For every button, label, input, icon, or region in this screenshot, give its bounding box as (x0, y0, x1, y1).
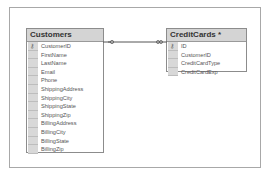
column-name: BillingZip (41, 145, 64, 154)
column-name: ShippingZip (41, 111, 71, 120)
row-selector[interactable] (28, 119, 38, 128)
column-row[interactable]: FirstName (27, 51, 103, 60)
column-row[interactable]: CustomerID (167, 51, 246, 60)
column-name: ShippingCity (41, 94, 72, 103)
column-name: CreditCardType (181, 59, 220, 68)
column-name: CreditCardExp (181, 68, 218, 77)
column-name: BillingState (41, 137, 69, 146)
key-icon: ⚷ (170, 42, 174, 50)
row-selector[interactable] (168, 51, 178, 60)
column-row[interactable]: ShippingCity (27, 94, 103, 103)
row-selector[interactable] (28, 85, 38, 94)
column-row[interactable]: ⚷CustomerID (27, 42, 103, 51)
row-selector[interactable]: ⚷ (168, 42, 178, 51)
row-selector[interactable] (28, 59, 38, 68)
row-selector[interactable] (28, 51, 38, 60)
column-row[interactable]: BillingState (27, 137, 103, 146)
column-row[interactable]: LastName (27, 59, 103, 68)
column-row[interactable]: CreditCardExp (167, 68, 246, 77)
row-selector[interactable] (28, 76, 38, 85)
column-name: CustomerID (41, 42, 71, 51)
row-selector[interactable] (28, 102, 38, 111)
row-selector[interactable] (168, 68, 178, 77)
column-name: Email (41, 68, 55, 77)
table-title: Customers (27, 29, 103, 42)
column-row[interactable]: Email (27, 68, 103, 77)
row-selector[interactable] (28, 137, 38, 146)
row-selector[interactable] (168, 59, 178, 68)
column-row[interactable]: CreditCardType (167, 59, 246, 68)
column-name: BillingAddress (41, 119, 76, 128)
column-row[interactable]: Phone (27, 76, 103, 85)
column-row[interactable]: ShippingState (27, 102, 103, 111)
column-name: ShippingAddress (41, 85, 83, 94)
row-selector[interactable] (28, 68, 38, 77)
column-row[interactable]: BillingAddress (27, 119, 103, 128)
table-customers[interactable]: Customers ⚷CustomerID FirstName LastName… (26, 28, 104, 153)
column-row[interactable]: ShippingAddress (27, 85, 103, 94)
table-title: CreditCards * (167, 29, 246, 42)
column-row[interactable]: BillingCity (27, 128, 103, 137)
row-selector[interactable] (28, 94, 38, 103)
column-name: Phone (41, 76, 57, 85)
column-name: ShippingState (41, 102, 76, 111)
row-selector[interactable] (28, 128, 38, 137)
column-name: LastName (41, 59, 67, 68)
column-name: FirstName (41, 51, 67, 60)
column-name: BillingCity (41, 128, 66, 137)
row-selector[interactable]: ⚷ (28, 42, 38, 51)
row-selector[interactable] (28, 145, 38, 154)
key-icon: ⚷ (30, 42, 34, 50)
column-name: ID (181, 42, 187, 51)
row-selector[interactable] (28, 111, 38, 120)
column-row[interactable]: ShippingZip (27, 111, 103, 120)
column-row[interactable]: BillingZip (27, 145, 103, 154)
column-name: CustomerID (181, 51, 211, 60)
relationship-line[interactable] (103, 38, 167, 46)
column-row[interactable]: ⚷ID (167, 42, 246, 51)
table-creditcards[interactable]: CreditCards * ⚷ID CustomerID CreditCardT… (166, 28, 247, 72)
